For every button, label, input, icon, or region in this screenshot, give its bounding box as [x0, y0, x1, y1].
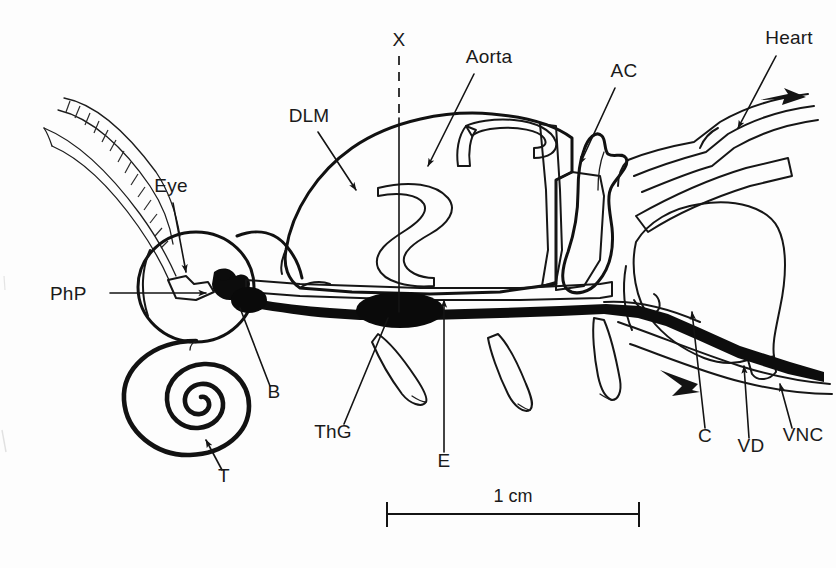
- label-eye: Eye: [154, 175, 187, 196]
- label-x: X: [393, 29, 406, 50]
- suboesophageal-ganglion: [231, 287, 267, 313]
- label-t: T: [218, 465, 230, 486]
- label-thg: ThG: [314, 421, 352, 442]
- label-vd: VD: [738, 435, 765, 456]
- scale-bar-label: 1 cm: [493, 486, 532, 506]
- label-e: E: [438, 450, 451, 471]
- label-vnc: VNC: [783, 424, 824, 445]
- label-aorta: Aorta: [466, 46, 513, 67]
- label-php: PhP: [50, 283, 87, 304]
- figure-root: Eye PhP B T ThG E DLM X Aorta AC Heart C…: [0, 0, 836, 568]
- label-ac: AC: [611, 60, 638, 81]
- anatomy-diagram-svg: Eye PhP B T ThG E DLM X Aorta AC Heart C…: [0, 0, 836, 568]
- label-b: B: [268, 381, 281, 402]
- figure-background: [0, 0, 836, 568]
- label-heart: Heart: [765, 27, 813, 48]
- label-dlm: DLM: [289, 105, 330, 126]
- thoracic-ganglion: [356, 292, 444, 328]
- label-c: C: [698, 425, 712, 446]
